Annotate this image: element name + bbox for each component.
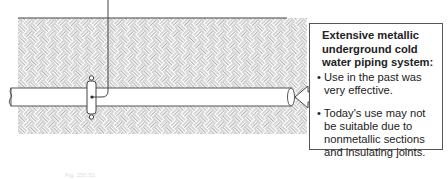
callout-bullet: • Use in the past was very effective. xyxy=(316,71,438,97)
figure-caption: Fig. 250.52 xyxy=(65,172,95,178)
earth-soil xyxy=(18,18,307,134)
water-pipe xyxy=(9,88,294,106)
callout-title: Extensive metallic underground cold wate… xyxy=(322,29,438,70)
callout-box: Extensive metallic underground cold wate… xyxy=(309,23,443,150)
callout-bullet: • Today's use may not be suitable due to… xyxy=(316,107,438,159)
